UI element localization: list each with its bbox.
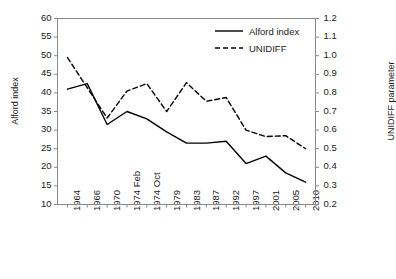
chart-root: Alford index UNIDIFF parameter 101520253… bbox=[0, 0, 396, 279]
legend-label: UNIDIFF bbox=[249, 43, 287, 54]
legend-label: Alford index bbox=[249, 26, 299, 37]
series-group bbox=[67, 58, 305, 183]
series-line-unidiff bbox=[67, 58, 305, 149]
series-line-alford-index bbox=[67, 84, 305, 183]
legend-group: Alford indexUNIDIFF bbox=[215, 26, 299, 54]
chart-plot-area: Alford indexUNIDIFF bbox=[0, 0, 396, 279]
